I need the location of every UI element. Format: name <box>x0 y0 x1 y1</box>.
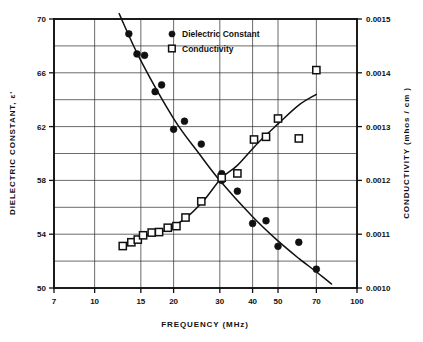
data-point <box>198 141 205 148</box>
legend-marker-conductivity <box>169 45 176 52</box>
x-tick-label: 40 <box>248 297 257 306</box>
data-point <box>155 228 162 235</box>
y-right-tick-label: 0.0015 <box>366 15 391 24</box>
data-point <box>140 232 147 239</box>
data-point <box>119 242 126 249</box>
data-point <box>263 217 270 224</box>
data-point <box>134 51 141 58</box>
y-right-tick-label: 0.0014 <box>366 69 391 78</box>
data-point <box>173 223 180 230</box>
data-point <box>125 30 132 37</box>
data-point <box>250 136 257 143</box>
y-left-tick-label: 70 <box>37 15 46 24</box>
x-tick-label: 15 <box>136 297 145 306</box>
data-point <box>152 88 159 95</box>
chart-canvas: 505458626670 0.00100.00110.00120.00130.0… <box>0 0 423 342</box>
data-point <box>158 82 165 89</box>
data-point <box>275 243 282 250</box>
data-point <box>182 214 189 221</box>
data-point <box>295 135 302 142</box>
data-point <box>141 52 148 59</box>
legend-marker-dielectric-constant <box>169 31 175 37</box>
x-tick-label: 10 <box>90 297 99 306</box>
y-right-tick-label: 0.0010 <box>366 284 391 293</box>
data-point <box>181 118 188 125</box>
data-point <box>234 170 241 177</box>
y-right-tick-label: 0.0013 <box>366 123 391 132</box>
y-left-tick-label: 50 <box>37 284 46 293</box>
x-tick-label: 70 <box>312 297 321 306</box>
data-point <box>274 115 281 122</box>
x-axis-title: FREQUENCY (MHz) <box>161 320 249 329</box>
y-left-tick-label: 62 <box>37 123 46 132</box>
legend-label-conductivity: Conductivity <box>182 44 234 54</box>
data-point <box>234 188 241 195</box>
x-tick-label: 100 <box>350 297 364 306</box>
y-left-tick-label: 58 <box>37 176 46 185</box>
y-left-tick-label: 54 <box>37 230 46 239</box>
data-point <box>313 266 320 273</box>
data-point <box>262 133 269 140</box>
x-tick-label: 20 <box>169 297 178 306</box>
y-right-tick-label: 0.0012 <box>366 176 391 185</box>
y-left-axis-title: DIELECTRIC CONSTANT, ε' <box>8 91 17 215</box>
x-tick-label: 50 <box>274 297 283 306</box>
y-right-tick-label: 0.0011 <box>366 230 391 239</box>
data-point <box>164 224 171 231</box>
x-tick-label: 7 <box>52 297 57 306</box>
data-point <box>148 229 155 236</box>
data-point <box>295 239 302 246</box>
x-tick-label: 30 <box>215 297 224 306</box>
data-point <box>313 67 320 74</box>
data-point <box>249 220 256 227</box>
data-point <box>198 198 205 205</box>
figure-root: 505458626670 0.00100.00110.00120.00130.0… <box>0 0 423 342</box>
data-point <box>218 174 225 181</box>
y-right-axis-title: CONDUCTIVITY (mhos / cm ) <box>402 87 411 219</box>
data-point <box>170 126 177 133</box>
legend-label-dielectric-constant: Dielectric Constant <box>182 29 260 39</box>
y-left-tick-label: 66 <box>37 69 46 78</box>
